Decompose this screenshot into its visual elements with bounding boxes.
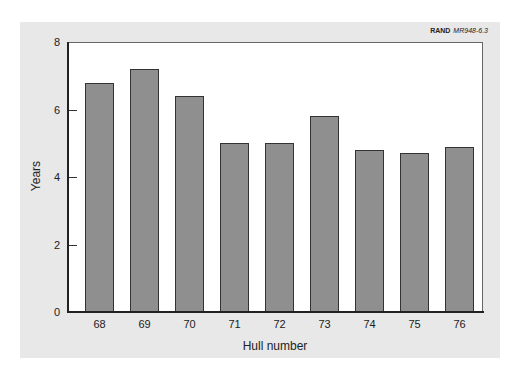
source-label: RANDMR948-6.3 <box>430 27 488 34</box>
bar-72 <box>265 143 294 312</box>
x-tick-label: 74 <box>350 318 390 330</box>
bar-73 <box>310 116 339 312</box>
y-axis-line <box>67 42 69 313</box>
x-tick-label: 71 <box>215 318 255 330</box>
y-tick-label: 4 <box>44 171 60 183</box>
y-tick-label: 6 <box>44 104 60 116</box>
y-tick-label: 0 <box>44 306 60 318</box>
y-tick-mark <box>69 245 77 246</box>
y-tick-mark <box>69 110 77 111</box>
x-tick-label: 72 <box>260 318 300 330</box>
y-tick-mark <box>69 177 77 178</box>
bar-76 <box>445 147 474 312</box>
x-tick-label: 68 <box>80 318 120 330</box>
bar-69 <box>130 69 159 312</box>
source-id: MR948-6.3 <box>453 27 488 34</box>
x-axis-title: Hull number <box>200 339 350 353</box>
x-tick-label: 73 <box>305 318 345 330</box>
x-tick-label: 76 <box>440 318 480 330</box>
bar-68 <box>85 83 114 313</box>
y-axis-title: Years <box>29 161 43 191</box>
bar-71 <box>220 143 249 312</box>
y-tick-label: 2 <box>44 239 60 251</box>
bar-75 <box>400 153 429 312</box>
bar-70 <box>175 96 204 312</box>
bar-74 <box>355 150 384 312</box>
source-org: RAND <box>430 27 450 34</box>
x-tick-label: 75 <box>395 318 435 330</box>
y-tick-label: 8 <box>44 36 60 48</box>
x-tick-label: 69 <box>125 318 165 330</box>
x-tick-label: 70 <box>170 318 210 330</box>
x-axis-line <box>67 311 484 313</box>
